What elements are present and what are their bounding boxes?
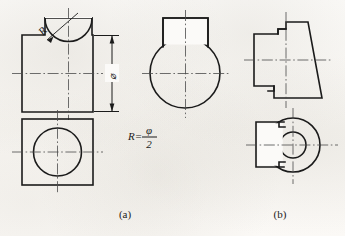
figure-a-formula: R= φ 2 [127, 124, 157, 150]
caption-b: (b) [274, 208, 287, 221]
formula-numerator: φ [146, 124, 152, 136]
front-view-outline [22, 18, 93, 112]
formula-lhs: R= [127, 130, 142, 142]
dimension-arrowhead-bottom [110, 104, 115, 112]
figure-a-front-view: R [12, 8, 103, 120]
side-view-circle [150, 38, 220, 108]
notch-upper-step [278, 29, 286, 34]
technical-drawing-canvas: R ⌀ [0, 0, 345, 236]
caption-a: (a) [119, 208, 132, 221]
figure-b-front-view [244, 12, 332, 108]
diameter-symbol-label: ⌀ [107, 73, 118, 80]
drawing-sheet: R ⌀ [0, 0, 345, 236]
formula-denominator: 2 [146, 138, 152, 150]
dimension-arrowhead-top [110, 36, 115, 44]
figure-a-top-view [12, 110, 103, 194]
figure-b-top-view [246, 108, 338, 184]
figure-a-side-view [142, 10, 229, 118]
top-view-b-tab-mask [257, 123, 283, 166]
